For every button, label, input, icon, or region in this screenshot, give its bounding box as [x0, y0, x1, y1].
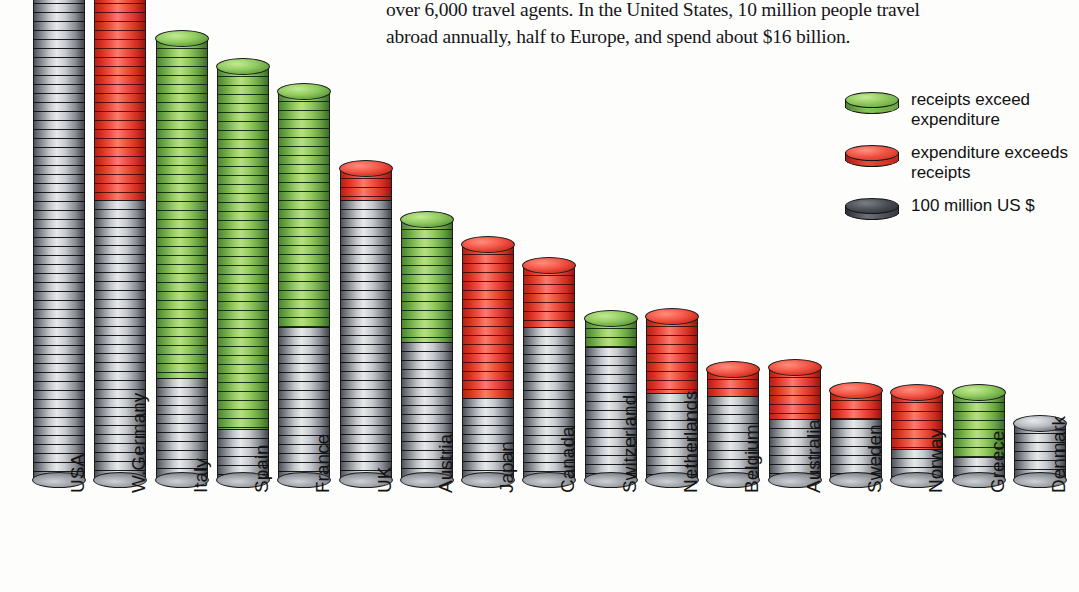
x-label-switzerland: Switzerland — [585, 487, 637, 592]
swatch-top — [845, 145, 899, 161]
x-label-canada: Canada — [523, 487, 575, 592]
bar-segment-red — [523, 266, 575, 327]
x-label-netherlands: Netherlands — [646, 487, 698, 592]
legend-label: receipts exceed expenditure — [911, 90, 1030, 130]
x-label-denmark: Denmark — [1014, 487, 1066, 592]
bar-top-cap — [645, 308, 699, 325]
x-label-text: USA — [67, 454, 89, 493]
x-label-italy: Italy — [156, 487, 208, 592]
x-label-text: Canada — [557, 426, 579, 493]
x-label-text: W.Germany — [128, 393, 150, 493]
bar-top-cap — [216, 58, 270, 75]
x-label-text: Italy — [190, 458, 212, 493]
bar-top-cap — [339, 160, 393, 177]
bar-top-cap — [768, 359, 822, 376]
bar-segment-red — [94, 0, 146, 200]
legend-row-1[interactable]: expenditure exceeds receipts — [845, 143, 1075, 183]
x-label-text: France — [312, 434, 334, 493]
bar-chart: 0123456789 USAW.GermanyItalySpainFranceU… — [0, 0, 1079, 592]
x-label-text: Netherlands — [680, 391, 702, 493]
bar-top-cap — [522, 257, 576, 274]
legend: receipts exceed expenditureexpenditure e… — [845, 90, 1075, 233]
x-label-spain: Spain — [217, 487, 269, 592]
x-label-text: Australia — [803, 419, 825, 493]
x-label-text: UK — [374, 467, 396, 493]
x-label-text: Switzerland — [619, 395, 641, 493]
x-label-text: Norway — [925, 429, 947, 493]
legend-row-2[interactable]: 100 million US $ — [845, 196, 1075, 220]
x-label-austria: Austria — [401, 487, 453, 592]
x-label-text: Belgium — [741, 424, 763, 493]
x-label-france: France — [278, 487, 330, 592]
x-label-australia: Australia — [769, 487, 821, 592]
x-label-w-germany: W.Germany — [94, 487, 146, 592]
bar-segment-gray — [340, 200, 392, 481]
x-label-sweden: Sweden — [830, 487, 882, 592]
x-label-text: Denmark — [1048, 416, 1070, 493]
x-label-text: Sweden — [864, 424, 886, 493]
x-label-greece: Greece — [953, 487, 1005, 592]
bar-segment-red — [646, 317, 698, 394]
swatch-top — [845, 198, 899, 214]
x-label-norway: Norway — [891, 487, 943, 592]
legend-label: expenditure exceeds receipts — [911, 143, 1068, 183]
x-label-japan: Japan — [462, 487, 514, 592]
bar-segment-green — [156, 39, 208, 378]
bar-segment-red — [462, 245, 514, 398]
x-label-text: Austria — [435, 434, 457, 493]
bar-top-cap — [155, 30, 209, 47]
bar-segment-green — [217, 67, 269, 429]
bar-top-cap — [829, 382, 883, 399]
legend-gray-swatch-icon — [845, 198, 899, 220]
legend-green-swatch-icon — [845, 92, 899, 114]
bar-segment-green — [278, 92, 330, 327]
x-label-usa: USA — [33, 487, 85, 592]
x-label-text: Japan — [496, 441, 518, 493]
swatch-top — [845, 92, 899, 108]
bar-top-cap — [400, 211, 454, 228]
legend-red-swatch-icon — [845, 145, 899, 167]
legend-label: 100 million US $ — [911, 196, 1035, 216]
x-label-uk: UK — [340, 487, 392, 592]
bar-segment-gray — [33, 0, 85, 480]
legend-row-0[interactable]: receipts exceed expenditure — [845, 90, 1075, 130]
x-label-text: Spain — [251, 444, 273, 493]
x-label-belgium: Belgium — [707, 487, 759, 592]
bar-segment-green — [401, 220, 453, 342]
x-label-text: Greece — [987, 431, 1009, 493]
